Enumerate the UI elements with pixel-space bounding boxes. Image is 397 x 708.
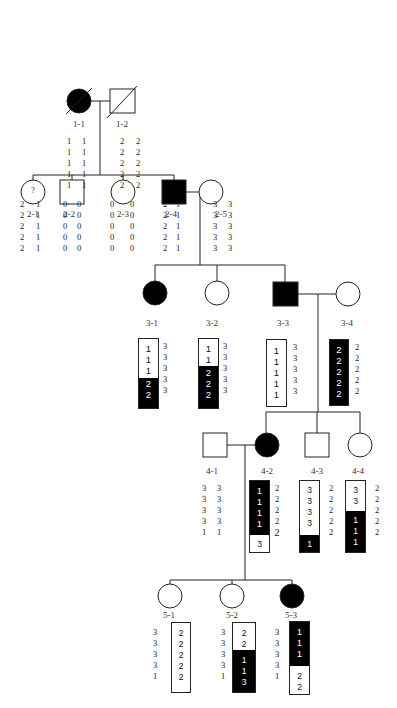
haplotype-5-1-side: 33331 <box>150 627 160 682</box>
individual-5-1-female-symbol <box>158 584 182 608</box>
label-1-1: 1-1 <box>73 119 85 129</box>
individual-4-2-affected-female-symbol <box>255 433 279 457</box>
haplotype-bar-5-1: 2 2 2 2 2 <box>171 622 191 693</box>
haplotype-1-2-left: 22222 <box>117 136 127 191</box>
haplotype-5-2-side: 33331 <box>218 627 228 682</box>
haplotype-2-4-left: 22222 <box>160 199 170 254</box>
haplotype-bar-3-1: 1 1 1 2 2 <box>138 338 159 409</box>
haplotype-2-2-left: 00000 <box>60 199 70 254</box>
haplotype-1-2-right: 22222 <box>133 136 143 191</box>
haplotype-1-1-left: 11111 <box>64 136 74 191</box>
individual-3-2-female-symbol <box>205 281 229 305</box>
individual-4-3-male-symbol <box>305 433 329 457</box>
label-3-1: 3-1 <box>146 318 158 328</box>
haplotype-2-1-left: 22222 <box>17 199 27 254</box>
label-5-1: 5-1 <box>163 610 175 620</box>
haplotype-3-4-side: 22222 <box>352 342 362 397</box>
label-4-2: 4-2 <box>261 466 273 476</box>
haplotype-3-2-side: 33333 <box>220 341 230 396</box>
haplotype-2-5-right: 33333 <box>225 199 235 254</box>
label-3-3: 3-3 <box>277 318 289 328</box>
haplotype-3-1-side: 33333 <box>160 341 170 396</box>
label-1-2: 1-2 <box>116 119 128 129</box>
individual-4-1-male-symbol <box>203 433 227 457</box>
uncertain-status-mark-2-1: ? <box>31 186 35 195</box>
individual-5-3-affected-female-symbol <box>280 584 304 608</box>
label-4-4: 4-4 <box>352 466 364 476</box>
haplotype-2-3-right: 00000 <box>127 199 137 254</box>
individual-3-4-female-symbol <box>336 282 360 306</box>
individual-3-1-affected-female-symbol <box>143 281 167 305</box>
haplotype-4-1-right: 33331 <box>214 483 224 538</box>
haplotype-4-1-left: 33331 <box>199 483 209 538</box>
haplotype-bar-5-2: 2 2 1 1 3 <box>232 622 256 693</box>
label-4-3: 4-3 <box>311 466 323 476</box>
label-5-3: 5-3 <box>285 610 297 620</box>
haplotype-3-3-side: 33333 <box>290 342 300 397</box>
label-3-4: 3-4 <box>341 318 353 328</box>
label-3-2: 3-2 <box>206 318 218 328</box>
haplotype-bar-3-3: 1 1 1 1 1 <box>266 339 287 407</box>
label-4-1: 4-1 <box>206 466 218 476</box>
haplotype-bar-3-2: 1 1 2 2 2 <box>198 338 219 409</box>
haplotype-2-4-right: 11111 <box>173 199 183 254</box>
haplotype-2-2-right: 00000 <box>74 199 84 254</box>
haplotype-4-4-side: 22222 <box>372 483 382 538</box>
haplotype-4-3-side: 22222 <box>326 483 336 538</box>
haplotype-2-1-right: 11111 <box>33 199 43 254</box>
haplotype-bar-3-4: 2 2 2 2 2 <box>329 339 349 406</box>
haplotype-bar-4-2: 1 1 1 1 3 <box>249 480 270 553</box>
haplotype-bar-4-3: 3 3 3 3 1 <box>299 480 320 553</box>
haplotype-2-3-left: 00000 <box>107 199 117 254</box>
haplotype-bar-4-4: 3 3 1 1 1 <box>345 480 366 553</box>
label-5-2: 5-2 <box>226 610 238 620</box>
haplotype-4-2-side: 22222 <box>272 483 282 538</box>
individual-3-3-affected-male-symbol <box>273 282 298 306</box>
haplotype-bar-5-3: 1 1 1 2 2 <box>289 621 310 695</box>
haplotype-1-1-right: 11111 <box>79 136 89 191</box>
individual-4-4-female-symbol <box>348 433 372 457</box>
individual-5-2-female-symbol <box>220 584 244 608</box>
haplotype-5-3-side: 33331 <box>272 627 282 682</box>
haplotype-2-5-left: 33333 <box>210 199 220 254</box>
